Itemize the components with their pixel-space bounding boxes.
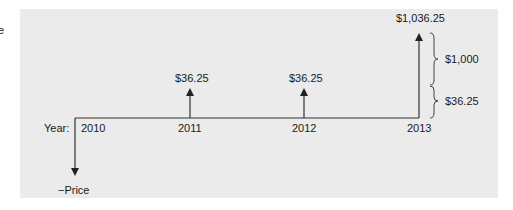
cash-flow-timeline xyxy=(0,0,513,210)
year-axis-label: Year: xyxy=(44,122,69,134)
year-label-2010: 2010 xyxy=(81,122,105,134)
year-label-2012: 2012 xyxy=(292,122,316,134)
cash-flow-label-2013: $1,036.25 xyxy=(396,12,445,24)
outflow-label-price: −Price xyxy=(58,184,90,196)
brace-principal xyxy=(430,33,438,85)
year-label-2011: 2011 xyxy=(178,122,202,134)
brace-coupon xyxy=(430,86,438,118)
cash-flow-label-2012: $36.25 xyxy=(289,72,323,84)
breakdown-label-principal: $1,000 xyxy=(445,53,479,65)
cash-flow-label-2011: $36.25 xyxy=(175,72,209,84)
year-label-2013: 2013 xyxy=(407,122,431,134)
breakdown-label-coupon: $36.25 xyxy=(445,95,479,107)
